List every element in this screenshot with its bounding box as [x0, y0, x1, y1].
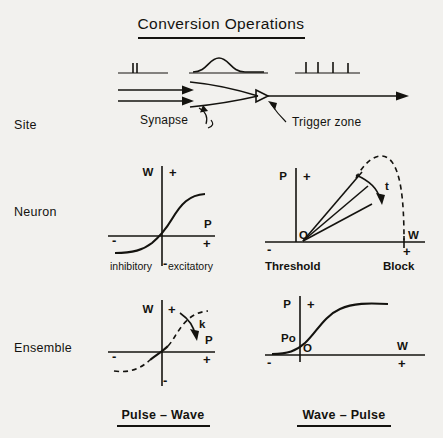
panel-ensemble-pulse-wave: W + k P + - - [108, 300, 215, 388]
row-label-site: Site [14, 118, 37, 132]
parameter-label-t: t [385, 180, 389, 192]
y-minus-sign: - [163, 256, 167, 271]
y-plus-sign: + [169, 165, 177, 180]
row-label-neuron: Neuron [14, 205, 57, 219]
y-axis-label: P [283, 298, 291, 310]
dendrite-convergence [190, 82, 258, 107]
output-axon [268, 92, 409, 101]
synaptic-wave-trace [189, 58, 268, 73]
footer-pulse-wave: Pulse – Wave [121, 408, 204, 422]
x-minus-sign: - [112, 233, 116, 248]
conversion-operations-figure: Conversion Operations Site Neuron Ensemb… [0, 0, 443, 438]
sigmoid-linear-segment [150, 346, 168, 360]
input-axon-upper [118, 86, 194, 95]
output-pulse-train [295, 62, 360, 73]
trigger-zone-label: Trigger zone [292, 115, 361, 129]
y-axis-label: P [279, 170, 287, 182]
x-plus-sign: + [203, 352, 211, 367]
origin-label: O [303, 342, 312, 354]
x-axis-label: W [397, 340, 408, 352]
x-minus-sign: - [112, 349, 116, 364]
origin-label: O [299, 229, 308, 241]
y-minus-sign: - [163, 373, 167, 388]
inhibitory-caption: inhibitory [110, 260, 153, 272]
figure-canvas: Conversion Operations Site Neuron Ensemb… [0, 0, 443, 438]
excitatory-caption: excitatory [168, 260, 214, 272]
x-axis-label: P [205, 334, 213, 346]
y-axis-label: W [143, 303, 154, 315]
site-diagram: Synapse Trigger zone [118, 58, 409, 129]
x-plus-sign: + [403, 244, 411, 259]
trigger-zone-annotation: Trigger zone [268, 101, 361, 129]
figure-title: Conversion Operations [138, 15, 305, 32]
intercept-label-po: Po [281, 332, 296, 344]
synapse-annotation: Synapse [140, 105, 213, 128]
x-axis-label: W [408, 229, 419, 241]
parameter-label-k: k [199, 318, 206, 330]
parameter-sweep-arrow [356, 175, 385, 205]
y-plus-sign: + [303, 169, 311, 184]
y-axis-label: W [143, 166, 154, 178]
panel-neuron-wave-pulse: t P + O W + - Threshold Block [265, 156, 425, 272]
x-minus-sign: - [267, 355, 271, 370]
block-caption: Block [383, 260, 415, 272]
fan-lines [303, 172, 372, 241]
parameter-sweep-arrow [180, 313, 199, 341]
x-minus-sign: - [267, 242, 271, 257]
synapse-label: Synapse [140, 113, 188, 127]
y-plus-sign: + [168, 302, 176, 317]
x-plus-sign: + [398, 356, 406, 371]
panel-neuron-pulse-wave: W + P + - inhibitory excitatory - [108, 165, 215, 272]
input-axon-lower [118, 97, 194, 106]
row-label-ensemble: Ensemble [14, 341, 72, 355]
x-plus-sign: + [203, 236, 211, 251]
dashed-sigmoid-lower [114, 360, 150, 372]
x-axis-label: P [204, 218, 212, 230]
sigmoid-curve [115, 194, 205, 253]
panel-ensemble-wave-pulse: P + Po O W + - [265, 296, 425, 371]
threshold-caption: Threshold [265, 260, 321, 272]
footer-wave-pulse: Wave – Pulse [302, 408, 385, 422]
y-plus-sign: + [307, 297, 315, 312]
sigmoid-curve [272, 304, 388, 354]
input-pulse-train [118, 63, 168, 73]
